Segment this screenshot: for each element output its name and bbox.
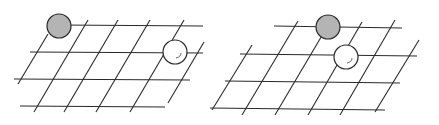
grid-line-horizontal — [225, 81, 400, 83]
grid-line-horizontal — [14, 79, 190, 80]
grid-line-diagonal — [64, 20, 118, 112]
board-panel-right — [210, 15, 419, 115]
board-panel-left — [14, 14, 204, 112]
black-stone-icon — [316, 15, 340, 39]
grid-line-diagonal — [130, 20, 184, 112]
grid-line-diagonal — [18, 34, 48, 84]
grid-line-diagonal — [242, 21, 298, 115]
grid-line-diagonal — [375, 40, 419, 112]
white-stone-icon — [163, 40, 187, 64]
go-diagram-figure — [0, 0, 439, 125]
grid-line-horizontal — [210, 108, 385, 110]
grid-line-diagonal — [212, 45, 252, 110]
grid-line-horizontal — [20, 106, 165, 107]
go-board-diagrams — [0, 0, 439, 125]
black-stone-icon — [47, 14, 71, 38]
grid-line-diagonal — [96, 20, 150, 112]
white-stone-icon — [334, 45, 358, 69]
grid-line-horizontal — [240, 54, 417, 56]
